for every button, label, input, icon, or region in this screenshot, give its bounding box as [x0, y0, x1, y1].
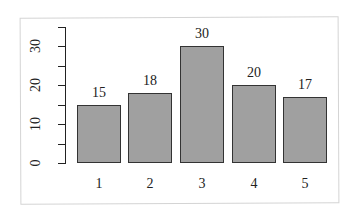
bar-value-label: 18	[128, 74, 172, 88]
bar-1	[77, 105, 121, 164]
bar-value-label: 20	[232, 66, 276, 80]
bar-4	[232, 85, 276, 163]
bar-2	[128, 93, 172, 163]
x-tick-label: 3	[180, 177, 224, 191]
bar-value-label: 17	[283, 78, 327, 92]
x-tick-label: 4	[232, 177, 276, 191]
x-tick-label: 2	[128, 177, 172, 191]
y-tick	[58, 144, 66, 145]
bar-value-label: 30	[180, 27, 224, 41]
x-tick-label: 5	[283, 177, 327, 191]
y-tick	[58, 105, 66, 106]
y-tick	[58, 66, 66, 67]
bar-5	[283, 97, 327, 163]
y-tick-label: 20	[29, 75, 43, 95]
y-tick	[58, 124, 66, 125]
bar-3	[180, 46, 224, 163]
y-tick-label: 10	[29, 114, 43, 134]
y-tick-label: 30	[29, 36, 43, 56]
bar-value-label: 15	[77, 86, 121, 100]
y-tick	[58, 85, 66, 86]
y-tick	[58, 27, 66, 28]
y-tick	[58, 46, 66, 47]
x-tick-label: 1	[77, 177, 121, 191]
y-tick-label: 0	[29, 153, 43, 173]
y-tick	[58, 163, 66, 164]
